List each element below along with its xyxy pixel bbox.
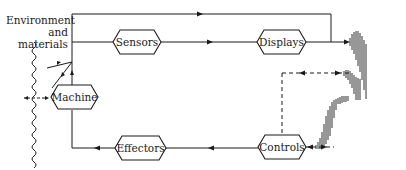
- human-operator-hatched-shape: [316, 31, 366, 149]
- environment-label: Environment and materials: [6, 14, 68, 50]
- machine-node-label: Machine: [51, 91, 98, 103]
- displays-node-label: Displays: [257, 36, 306, 48]
- environment-label-line1: Environment: [6, 14, 68, 26]
- environment-label-line2: and materials: [6, 26, 68, 50]
- signal-lines: [72, 12, 350, 151]
- effectors-node-label: Effectors: [115, 142, 166, 154]
- dashed-arrowheads: [299, 71, 341, 150]
- machine-environment-exchange: [24, 96, 49, 100]
- environment-boundary-wavy-line: [32, 42, 36, 168]
- human-machine-system-diagram: Environment and materials Machine Sensor…: [0, 0, 406, 170]
- sensors-node-label: Sensors: [113, 36, 161, 48]
- controls-node-label: Controls: [258, 141, 306, 153]
- environment-to-machine-arrows: [47, 61, 74, 88]
